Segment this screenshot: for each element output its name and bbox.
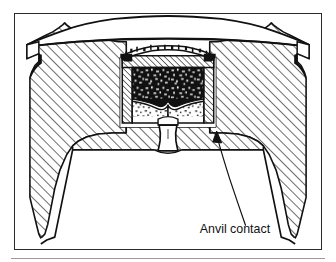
footer-divider	[11, 258, 325, 259]
primer-compound	[132, 68, 204, 100]
figure-frame: Anvil contact	[14, 13, 322, 250]
anvil-contact-label: Anvil contact	[200, 222, 271, 236]
cross-section-drawing: Anvil contact	[15, 14, 321, 249]
figure-page: Anvil contact	[0, 0, 336, 262]
primer-cup-top-band	[122, 56, 213, 68]
anvil-center-post	[158, 117, 178, 125]
